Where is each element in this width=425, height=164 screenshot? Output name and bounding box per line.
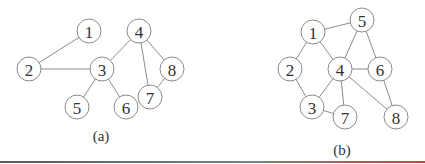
node-label: 3: [308, 99, 317, 118]
node-4: 4: [328, 57, 352, 81]
node-3: 3: [300, 95, 324, 119]
node-3: 3: [90, 57, 114, 81]
node-label: 8: [168, 61, 177, 80]
graph-diagram: 12345678 (a) 15246378 (b): [0, 0, 425, 164]
node-label: 3: [98, 61, 107, 80]
graph-a: 12345678 (a): [17, 19, 184, 145]
node-8: 8: [160, 57, 184, 81]
node-2: 2: [278, 57, 302, 81]
node-2: 2: [17, 57, 41, 81]
node-label: 1: [309, 24, 318, 43]
node-5: 5: [350, 8, 374, 32]
node-label: 4: [336, 61, 345, 80]
graph-b-caption: (b): [333, 142, 351, 159]
node-label: 4: [135, 23, 144, 42]
node-7: 7: [138, 85, 162, 109]
node-label: 7: [341, 109, 350, 128]
node-5: 5: [65, 95, 89, 119]
bottom-divider-line: [0, 161, 425, 163]
node-8: 8: [384, 105, 408, 129]
node-label: 2: [286, 61, 295, 80]
node-1: 1: [77, 19, 101, 43]
node-label: 1: [85, 23, 94, 42]
node-7: 7: [333, 105, 357, 129]
node-label: 2: [25, 61, 34, 80]
node-6: 6: [114, 95, 138, 119]
node-1: 1: [301, 20, 325, 44]
node-label: 5: [73, 99, 82, 118]
node-6: 6: [368, 57, 392, 81]
node-label: 6: [376, 61, 385, 80]
node-label: 8: [392, 109, 401, 128]
node-label: 6: [122, 99, 131, 118]
node-4: 4: [127, 19, 151, 43]
graph-b: 15246378 (b): [278, 8, 408, 159]
graph-a-caption: (a): [93, 128, 110, 145]
node-label: 7: [146, 89, 155, 108]
node-label: 5: [358, 12, 367, 31]
graph-b-nodes: 15246378: [278, 8, 408, 129]
